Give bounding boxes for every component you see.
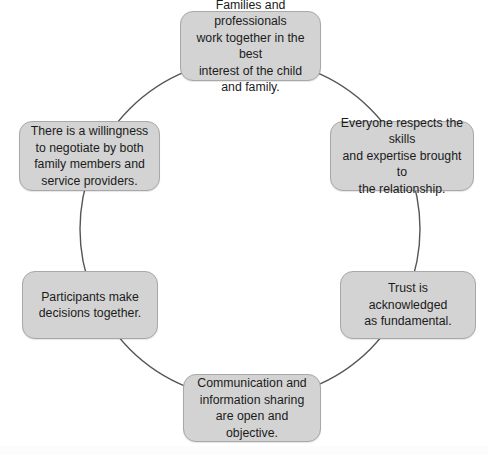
node-communication-and-information-sharing[interactable]: Communication and information sharing ar… — [183, 374, 321, 442]
node-participants-make-decisions[interactable]: Participants make decisions together. — [22, 271, 158, 339]
node-everyone-respects-skills[interactable]: Everyone respects the skills and experti… — [330, 121, 474, 191]
diagram-canvas: Families and professionals work together… — [0, 0, 488, 455]
node-label: Everyone respects the skills and experti… — [338, 115, 466, 198]
node-willingness-to-negotiate[interactable]: There is a willingness to negotiate by b… — [19, 121, 160, 191]
node-label: Families and professionals work together… — [188, 0, 313, 96]
node-label: Participants make decisions together. — [39, 289, 142, 322]
bottom-edge-band — [0, 446, 488, 455]
node-families-and-professionals[interactable]: Families and professionals work together… — [180, 11, 321, 81]
node-label: Communication and information sharing ar… — [191, 375, 313, 441]
node-label: There is a willingness to negotiate by b… — [31, 123, 149, 189]
cycle-circle-path — [80, 59, 420, 399]
node-trust-acknowledged[interactable]: Trust is acknowledged as fundamental. — [340, 271, 476, 339]
node-label: Trust is acknowledged as fundamental. — [348, 280, 468, 330]
